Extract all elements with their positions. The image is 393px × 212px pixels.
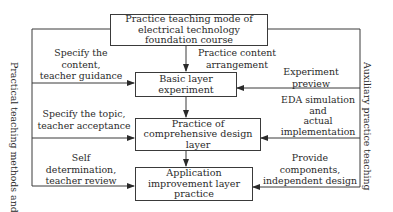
left-title-line-2: methods and means xyxy=(9,151,20,212)
right-label-1-line-1: Experiment xyxy=(276,66,346,78)
left-title-practical-teaching-methods: Practical teaching methods and means xyxy=(9,62,20,162)
right-label-2-line-3: actual xyxy=(276,116,360,127)
label-practice-content-arrangement: Practice content arrangement xyxy=(192,47,282,70)
left-label-1-line-3: teacher guidance xyxy=(36,70,126,82)
center-label-line-2: arrangement xyxy=(192,59,282,71)
left-label-2-line-2: teacher acceptance xyxy=(36,120,132,132)
right-label-2-line-4: implementation xyxy=(276,127,360,138)
basic-layer-line-2: experiment xyxy=(158,85,213,96)
right-title-line-1: Auxiliary practice xyxy=(362,62,373,146)
box-application-layer: Application improvement layer practice xyxy=(135,167,253,201)
box-comprehensive-layer: Practice of comprehensive design layer xyxy=(135,118,261,151)
label-specify-content: Specify the content, teacher guidance xyxy=(36,47,126,82)
label-experiment-preview: Experiment preview xyxy=(276,66,346,89)
basic-layer-line-1: Basic layer xyxy=(158,74,213,85)
right-title-line-2: teaching xyxy=(362,149,373,190)
label-specify-topic: Specify the topic, teacher acceptance xyxy=(36,108,132,131)
comprehensive-line-3: layer xyxy=(144,140,253,151)
label-self-determination: Self determination, teacher review xyxy=(36,152,126,187)
right-title-auxiliary-practice-teaching: Auxiliary practice teaching xyxy=(362,62,373,162)
top-box-course-mode: Practice teaching mode of electrical tec… xyxy=(110,14,268,46)
left-label-1-line-2: content, xyxy=(36,59,126,71)
right-label-3-line-3: independent design xyxy=(262,175,358,187)
right-label-1-line-2: preview xyxy=(276,78,346,90)
left-label-3-line-2: determination, xyxy=(36,164,126,176)
left-label-1-line-1: Specify the xyxy=(36,47,126,59)
left-label-3-line-1: Self xyxy=(36,152,126,164)
application-line-3: practice xyxy=(148,189,240,200)
right-label-3-line-2: components, xyxy=(262,164,358,176)
left-label-2-line-1: Specify the topic, xyxy=(36,108,132,120)
right-label-2-line-1: EDA simulation xyxy=(276,95,360,106)
right-label-3-line-1: Provide xyxy=(262,152,358,164)
left-title-line-1: Practical teaching xyxy=(9,62,20,148)
label-eda-simulation: EDA simulation and actual implementation xyxy=(276,95,360,137)
box-basic-layer: Basic layer experiment xyxy=(135,72,237,97)
left-label-3-line-3: teacher review xyxy=(36,175,126,187)
top-box-line-3: foundation course xyxy=(125,35,252,46)
label-provide-components: Provide components, independent design xyxy=(262,152,358,187)
center-label-line-1: Practice content xyxy=(192,47,282,59)
